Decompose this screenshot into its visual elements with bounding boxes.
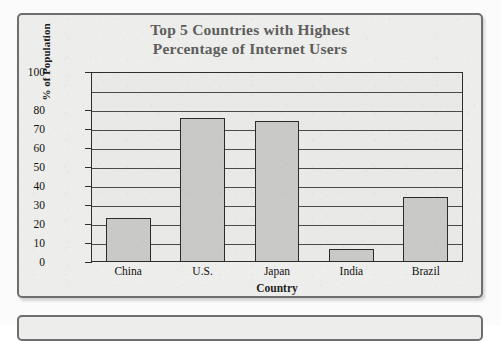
bar-india[interactable] — [329, 249, 374, 262]
x-tick-label-u-s: U.S. — [165, 265, 239, 277]
bar-u-s[interactable] — [180, 118, 225, 262]
y-tick-label-0: 0 — [17, 256, 45, 268]
y-tick-mark-100 — [85, 72, 92, 73]
next-figure-panel-sliver — [17, 315, 483, 341]
y-tick-mark-70 — [85, 129, 92, 130]
y-tick-label-40: 40 — [17, 180, 45, 192]
bar-china[interactable] — [106, 218, 151, 262]
y-tick-label-60: 60 — [17, 142, 45, 154]
y-tick-label-20: 20 — [17, 218, 45, 230]
chart-title-line-1: Top 5 Countries with Highest — [19, 20, 481, 39]
x-axis-title: Country — [91, 282, 463, 294]
y-tick-label-70: 70 — [17, 123, 45, 135]
y-tick-mark-10 — [85, 243, 92, 244]
bar-slot — [91, 72, 165, 262]
x-tick-label-brazil: Brazil — [389, 265, 463, 277]
bars-layer — [91, 72, 463, 262]
y-tick-mark-50 — [85, 167, 92, 168]
bar-slot — [314, 72, 388, 262]
bar-japan[interactable] — [255, 121, 300, 262]
x-tick-label-china: China — [91, 265, 165, 277]
bar-brazil[interactable] — [403, 197, 448, 262]
y-tick-mark-40 — [85, 186, 92, 187]
bar-slot — [240, 72, 314, 262]
y-tick-mark-0 — [85, 262, 92, 263]
bar-slot — [389, 72, 463, 262]
y-tick-label-100: 100 — [17, 66, 45, 78]
x-tick-label-japan: Japan — [240, 265, 314, 277]
y-tick-label-30: 30 — [17, 199, 45, 211]
y-tick-label-80: 80 — [17, 104, 45, 116]
chart-title: Top 5 Countries with Highest Percentage … — [19, 20, 481, 58]
y-tick-mark-60 — [85, 148, 92, 149]
y-tick-mark-20 — [85, 224, 92, 225]
y-tick-label-10: 10 — [17, 237, 45, 249]
y-tick-mark-80 — [85, 110, 92, 111]
bar-slot — [165, 72, 239, 262]
chart-figure-panel: Top 5 Countries with Highest Percentage … — [17, 13, 483, 298]
y-tick-mark-30 — [85, 205, 92, 206]
chart-title-line-2: Percentage of Internet Users — [19, 39, 481, 58]
y-tick-label-50: 50 — [17, 161, 45, 173]
x-tick-label-india: India — [314, 265, 388, 277]
